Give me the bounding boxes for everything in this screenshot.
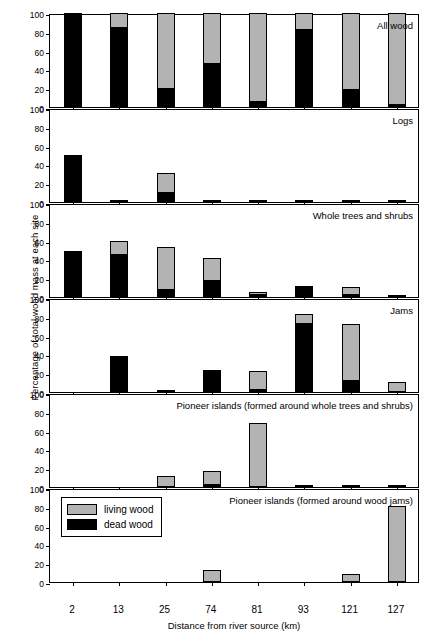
x-tick-label-74: 74: [191, 604, 231, 615]
y-tick: [46, 15, 50, 16]
y-tick: [46, 34, 50, 35]
bar-2: [64, 203, 82, 297]
y-tick: [46, 185, 50, 186]
bar-segment-living-wood: [203, 258, 221, 282]
x-tick: [258, 582, 259, 586]
bar-93: [295, 203, 313, 297]
bar-segment-dead-wood: [295, 30, 313, 107]
bar-segment-dead-wood: [64, 251, 82, 297]
bar-segment-dead-wood: [203, 281, 221, 297]
bar-93: [295, 108, 313, 202]
bar-segment-living-wood: [157, 247, 175, 290]
bar-segment-dead-wood: [388, 105, 406, 107]
bar-74: [203, 203, 221, 297]
legend-label-dead-wood: dead wood: [104, 519, 153, 530]
y-tick: [46, 129, 50, 130]
x-tick: [166, 582, 167, 586]
y-tick: [46, 509, 50, 510]
y-tick-label: 60: [20, 334, 44, 342]
x-tick-label-93: 93: [283, 604, 323, 615]
figure: Percentage of total wood mass at each si…: [0, 0, 440, 641]
x-tick: [304, 582, 305, 586]
bar-segment-dead-wood: [110, 28, 128, 107]
bar-segment-dead-wood: [295, 324, 313, 392]
panel-title: Pioneer islands (formed around wood jams…: [229, 495, 413, 506]
bar-segment-dead-wood: [388, 295, 406, 297]
y-tick: [46, 71, 50, 72]
y-tick-label: 80: [20, 30, 44, 38]
bar-13: [110, 203, 128, 297]
bar-segment-living-wood: [342, 287, 360, 295]
y-tick-label: 60: [20, 49, 44, 57]
y-tick-label: 20: [20, 466, 44, 474]
bar-81: [249, 108, 267, 202]
y-tick: [46, 356, 50, 357]
legend-item-dead-wood: dead wood: [67, 517, 153, 532]
y-tick: [46, 565, 50, 566]
y-tick-label: 60: [20, 239, 44, 247]
y-tick-label: 80: [20, 125, 44, 133]
bar-segment-living-wood: [203, 570, 221, 582]
x-tick: [73, 582, 74, 586]
bar-121: [342, 108, 360, 202]
bar-segment-dead-wood: [249, 295, 267, 297]
bar-segment-living-wood: [388, 485, 406, 487]
y-tick: [46, 243, 50, 244]
bar-segment-dead-wood: [388, 200, 406, 202]
panel-3: 020406080100Whole trees and shrubs: [49, 204, 419, 298]
y-tick-label: 40: [20, 162, 44, 170]
bar-81: [249, 13, 267, 107]
y-tick-label: 100: [20, 296, 44, 304]
legend-swatch-living-wood: [67, 504, 97, 515]
x-tick-label-127: 127: [376, 604, 416, 615]
bar-segment-dead-wood: [203, 64, 221, 107]
x-tick-label-25: 25: [145, 604, 185, 615]
bar-13: [110, 13, 128, 107]
bar-segment-dead-wood: [249, 390, 267, 392]
bar-segment-living-wood: [249, 371, 267, 390]
bar-segment-dead-wood: [249, 102, 267, 107]
bar-segment-dead-wood: [342, 295, 360, 297]
y-tick: [46, 166, 50, 167]
bar-segment-living-wood: [157, 13, 175, 89]
bar-segment-living-wood: [342, 13, 360, 90]
bar-segment-dead-wood: [64, 13, 82, 107]
y-tick: [46, 375, 50, 376]
panel-title: Jams: [390, 305, 413, 316]
y-tick-label: 0: [20, 580, 44, 588]
y-tick: [46, 205, 50, 206]
bar-93: [295, 298, 313, 392]
y-tick: [46, 414, 50, 415]
bar-segment-dead-wood: [249, 200, 267, 202]
y-tick-label: 20: [20, 276, 44, 284]
y-tick: [46, 490, 50, 491]
y-tick-label: 80: [20, 220, 44, 228]
panel-1: 020406080100All wood: [49, 14, 419, 108]
y-tick-label: 20: [20, 561, 44, 569]
bar-74: [203, 13, 221, 107]
panel-4: 020406080100Jams: [49, 299, 419, 393]
panel-2: 020406080100Logs: [49, 109, 419, 203]
bar-segment-dead-wood: [110, 200, 128, 202]
x-tick-label-81: 81: [237, 604, 277, 615]
bar-segment-living-wood: [110, 13, 128, 28]
y-tick-label: 40: [20, 67, 44, 75]
bar-segment-dead-wood: [110, 255, 128, 297]
y-tick-label: 80: [20, 505, 44, 513]
bar-segment-living-wood: [249, 13, 267, 102]
bar-segment-dead-wood: [157, 89, 175, 107]
y-tick: [46, 300, 50, 301]
y-tick-label: 40: [20, 352, 44, 360]
y-tick-label: 60: [20, 144, 44, 152]
y-tick: [46, 395, 50, 396]
panel-title: All wood: [377, 20, 413, 31]
y-tick: [46, 528, 50, 529]
bar-segment-living-wood: [249, 292, 267, 295]
y-tick-label: 40: [20, 542, 44, 550]
bar-segment-living-wood: [295, 13, 313, 30]
bar-segment-dead-wood: [110, 356, 128, 392]
y-tick-label: 100: [20, 391, 44, 399]
bar-segment-living-wood: [342, 574, 360, 582]
y-tick-label: 40: [20, 257, 44, 265]
panel-title: Logs: [392, 115, 413, 126]
